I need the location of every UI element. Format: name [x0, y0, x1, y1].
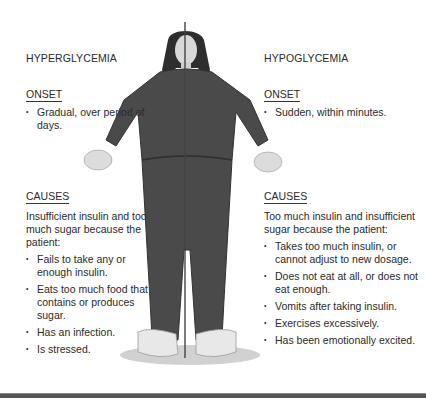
- causes-list: Fails to take any or enough insulin. Eat…: [26, 253, 151, 356]
- bottom-rule-divider: [0, 393, 426, 398]
- right-hand: [254, 152, 282, 172]
- hyperglycemia-causes: CAUSES Insufficient insulin and too much…: [26, 190, 151, 360]
- onset-list: Sudden, within minutes.: [264, 106, 386, 119]
- list-item: Eats too much food that contains or prod…: [26, 283, 151, 322]
- face: [175, 35, 197, 65]
- right-shoe: [196, 329, 236, 356]
- list-item: Has an infection.: [26, 326, 151, 339]
- causes-heading: CAUSES: [26, 190, 69, 204]
- hypoglycemia-column: HYPOGLYCEMIA ONSET Sudden, within minute…: [264, 52, 424, 65]
- list-item: Has been emotionally excited.: [264, 334, 424, 347]
- hypoglycemia-causes: CAUSES Too much insulin and insufficient…: [264, 190, 424, 351]
- list-item: Does not eat at all, or does not eat eno…: [264, 270, 424, 296]
- list-item: Takes too much insulin, or cannot adjust…: [264, 240, 424, 266]
- causes-intro: Too much insulin and insufficient sugar …: [264, 210, 424, 236]
- hyperglycemia-onset: ONSET Gradual, over period of days.: [26, 88, 151, 136]
- causes-heading: CAUSES: [264, 190, 307, 204]
- hyperglycemia-title: HYPERGLYCEMIA: [26, 52, 151, 65]
- causes-intro: Insufficient insulin and too much sugar …: [26, 210, 151, 249]
- onset-heading: ONSET: [264, 88, 300, 102]
- causes-list: Takes too much insulin, or cannot adjust…: [264, 240, 424, 347]
- list-item: Fails to take any or enough insulin.: [26, 253, 151, 279]
- hypoglycemia-onset: ONSET Sudden, within minutes.: [264, 88, 386, 123]
- left-hand: [84, 150, 112, 170]
- hypoglycemia-title: HYPOGLYCEMIA: [264, 52, 424, 65]
- onset-heading: ONSET: [26, 88, 62, 102]
- list-item: Exercises excessively.: [264, 317, 424, 330]
- onset-list: Gradual, over period of days.: [26, 106, 151, 132]
- hyperglycemia-column: HYPERGLYCEMIA ONSET Gradual, over period…: [26, 52, 151, 65]
- list-item: Vomits after taking insulin.: [264, 300, 424, 313]
- list-item: Sudden, within minutes.: [264, 106, 386, 119]
- list-item: Is stressed.: [26, 343, 151, 356]
- list-item: Gradual, over period of days.: [26, 106, 151, 132]
